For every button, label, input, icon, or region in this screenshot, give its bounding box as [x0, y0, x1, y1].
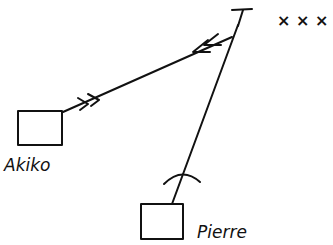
akiko-label: Akiko — [3, 155, 50, 175]
akiko-target-line — [63, 37, 232, 112]
diagram-canvas: × × × Akiko Pierre — [0, 0, 333, 245]
target-marks: × × × — [277, 11, 328, 30]
pierre-label: Pierre — [197, 222, 247, 242]
pierre-node-box — [141, 204, 183, 239]
akiko-node-box — [18, 111, 62, 145]
target-node — [232, 9, 252, 26]
